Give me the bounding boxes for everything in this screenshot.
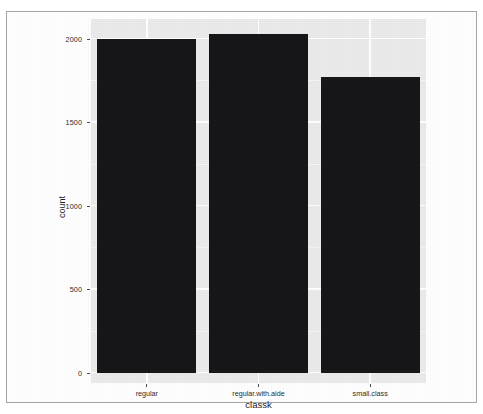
figure-frame: 0500100015002000 count regularregular.wi…	[6, 11, 477, 403]
x-axis-tick-mark	[146, 384, 147, 387]
plot-area: 0500100015002000 count regularregular.wi…	[7, 12, 476, 402]
y-axis-title: count	[57, 196, 67, 218]
x-axis-tick-mark	[370, 384, 371, 387]
x-axis-title: classk	[91, 399, 426, 410]
x-axis-tick-label: regular	[136, 389, 158, 398]
bar	[321, 77, 420, 373]
x-axis-tick-mark	[258, 384, 259, 387]
y-axis-tick-mark	[87, 122, 90, 123]
y-axis-tick-mark	[87, 39, 90, 40]
y-axis-tick-label: 1000	[7, 202, 82, 211]
chart-panel	[91, 19, 426, 383]
y-axis-tick-label: 500	[7, 285, 82, 294]
x-axis-tick-label: small.class	[353, 389, 388, 398]
bar	[97, 39, 196, 373]
y-axis-tick-mark	[87, 206, 90, 207]
x-axis-tick-label: regular.with.aide	[232, 389, 284, 398]
y-axis-tick-label: 2000	[7, 35, 82, 44]
y-axis-tick-mark	[87, 289, 90, 290]
y-axis-tick-label: 0	[7, 369, 82, 378]
y-axis-tick-mark	[87, 373, 90, 374]
y-axis-tick-label: 1500	[7, 118, 82, 127]
bar	[209, 34, 308, 373]
